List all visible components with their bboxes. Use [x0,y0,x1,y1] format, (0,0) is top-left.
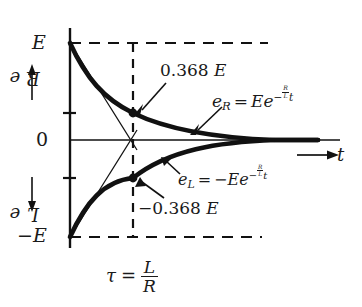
annotation-neg0368E-sign: − [138,198,152,218]
y-axis-name-eL: eL [0,196,52,230]
data-point-neg0368E [129,174,138,183]
data-point-0368E [129,109,138,118]
eL-subscript: L [5,205,61,223]
eq-eR-lhs-base: e [212,91,222,111]
y-axis-name-eR: eR [0,60,52,94]
annotation-0368E-number: 0.368 [160,60,209,80]
eq-eL-sign: − [214,170,227,189]
eq-eL-lhs-subscript: L [187,178,194,191]
eq-eR-lhs-subscript: R [222,99,231,113]
eq-eL-exp-variable: t [263,170,267,181]
eq-eR-exp-fraction: RL [282,85,289,99]
tau-numerator: L [141,258,158,277]
eq-eL-amplitude: E [228,170,240,189]
eq-eR-exp-sign: − [274,91,283,103]
eq-eR-exponent: −RLt [274,91,294,103]
tau-equals: = [121,265,136,286]
tau-denominator: R [141,277,158,295]
annotation-negative-0368E: −0.368 E [138,200,219,217]
eq-eL-exp-sign: − [249,170,257,181]
eq-eL-exp-numerator: R [257,164,263,171]
figure-rl-circuit-voltage-decay: E 0 −E eR eL t 0.368 E −0.368 E eR=Ee−RL… [0,0,362,307]
annotation-neg0368E-number: 0.368 [152,198,201,218]
leader-arrow-neg0368E-shaft [142,182,164,198]
eq-eL-exp-base: e [239,170,248,189]
eR-subscript: R [5,69,61,87]
eq-eR-exp-denominator: L [282,93,289,99]
eq-eR-exp-variable: t [289,91,293,103]
eq-eL-exp-fraction: RL [257,164,263,177]
eq-eR-exp-base: e [263,91,273,111]
eq-eL-exponent: −RLt [249,170,268,181]
annotation-neg0368E-unit: E [206,198,218,218]
equation-eR: eR=Ee−RLt [212,86,293,112]
leader-arrow-0368E-shaft [142,83,166,110]
eq-eL-exp-denominator: L [257,171,263,177]
equation-time-constant: τ=LR [106,258,158,296]
eq-eL-equals: = [198,170,211,189]
annotation-0368E: 0.368 E [160,62,227,79]
x-axis-name-t: t [337,146,344,164]
annotation-0368E-unit: E [214,60,226,80]
plot-canvas [0,0,362,307]
equation-eL: eL=−Ee−RLt [178,165,267,190]
tau-fraction: LR [141,258,158,296]
eq-eR-amplitude: E [251,91,263,111]
tau-symbol: τ [106,265,116,286]
eq-eR-equals: = [234,91,248,111]
y-axis-label-zero: 0 [36,130,48,149]
